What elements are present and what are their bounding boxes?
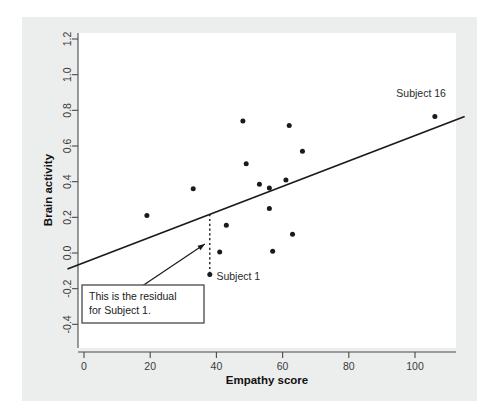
subject-16-label: Subject 16 xyxy=(396,87,446,99)
callout-line-2: for Subject 1. xyxy=(89,304,151,316)
x-tick-label: 0 xyxy=(81,360,87,372)
y-tick-label: 0.2 xyxy=(61,210,73,225)
x-tick-label: 40 xyxy=(211,360,223,372)
y-tick-label: 0.8 xyxy=(61,103,73,118)
data-point xyxy=(191,186,196,191)
data-point xyxy=(270,249,275,254)
data-point xyxy=(207,272,212,277)
data-point xyxy=(432,114,437,119)
data-point xyxy=(267,185,272,190)
y-tick-label: 1.0 xyxy=(61,67,73,82)
data-point xyxy=(257,182,262,187)
y-tick-label: 1.2 xyxy=(61,32,73,47)
data-point xyxy=(217,250,222,255)
x-tick-label: 80 xyxy=(343,360,355,372)
data-point xyxy=(224,223,229,228)
x-tick-label: 60 xyxy=(277,360,289,372)
callout-line-1: This is the residual xyxy=(89,290,177,302)
x-axis-title: Empathy score xyxy=(226,374,308,386)
data-point xyxy=(244,161,249,166)
subject-1-label: Subject 1 xyxy=(216,270,260,282)
y-tick-label: 0.0 xyxy=(61,246,73,261)
residual-callout-box: This is the residual for Subject 1. xyxy=(82,285,204,323)
data-point xyxy=(287,123,292,128)
data-point xyxy=(240,119,245,124)
scatter-plot: -0.4-0.20.00.20.40.60.81.01.2 0204060801… xyxy=(0,0,494,416)
y-axis-ticks: -0.4-0.20.00.20.40.60.81.01.2 xyxy=(61,32,78,334)
y-axis-title: Brain activity xyxy=(42,153,54,226)
y-tick-label: 0.4 xyxy=(61,174,73,189)
x-axis-ticks: 020406080100 xyxy=(81,352,424,372)
x-tick-label: 20 xyxy=(144,360,156,372)
data-point xyxy=(283,177,288,182)
y-tick-label: -0.4 xyxy=(61,315,73,333)
figure-container: -0.4-0.20.00.20.40.60.81.01.2 0204060801… xyxy=(0,0,494,416)
data-point xyxy=(267,206,272,211)
data-point xyxy=(300,149,305,154)
data-point xyxy=(144,213,149,218)
x-tick-label: 100 xyxy=(406,360,424,372)
y-tick-label: -0.2 xyxy=(61,279,73,297)
data-point xyxy=(290,232,295,237)
y-tick-label: 0.6 xyxy=(61,139,73,154)
